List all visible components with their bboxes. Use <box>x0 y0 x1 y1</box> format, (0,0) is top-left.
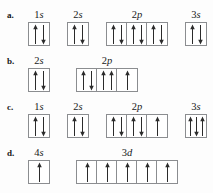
orbital-group: 2s <box>67 8 89 46</box>
subshell-label-l: p <box>137 101 142 112</box>
orbital-box <box>97 69 117 91</box>
subshell-label-l: s <box>79 101 83 112</box>
diagram-row-d: d.4s3d <box>0 140 213 188</box>
electron-arrow-down-icon <box>40 70 47 91</box>
orbital-box <box>117 161 137 183</box>
orbital-box <box>77 161 97 183</box>
part-letter: c. <box>7 102 13 112</box>
electron-arrow-up-icon <box>71 116 78 137</box>
orbital-box <box>147 115 167 137</box>
orbital-box-set <box>106 114 168 138</box>
subshell-label-l: s <box>79 9 83 20</box>
orbital-box <box>29 23 49 45</box>
subshell-label: 3d <box>76 146 178 159</box>
electron-arrow-up-icon <box>130 116 137 137</box>
orbital-diagram-figure: a.1s2s2p3sb.2s2pc.1s2s2p3sd.4s3d <box>0 0 213 193</box>
orbital-box <box>186 115 206 137</box>
orbital-box <box>77 69 97 91</box>
subshell-label: 2p <box>106 100 168 113</box>
electron-arrow-down-icon <box>88 70 95 91</box>
electron-arrow-up-icon <box>124 162 131 183</box>
electron-arrow-up-icon <box>32 116 39 137</box>
orbital-box <box>117 69 137 91</box>
orbital-box-set <box>185 114 207 138</box>
electron-arrow-up-icon <box>130 24 137 45</box>
orbital-box-set <box>28 22 50 46</box>
orbital-box <box>29 69 49 91</box>
electron-arrow-down-icon <box>40 24 47 45</box>
subshell-label-l: p <box>137 9 142 20</box>
orbital-group: 4s <box>28 146 50 184</box>
orbital-group: 2s <box>28 54 50 92</box>
electron-arrow-down-icon <box>138 24 145 45</box>
electron-arrow-down-icon <box>79 116 86 137</box>
subshell-label-l: s <box>197 9 201 20</box>
orbital-box-set <box>106 22 168 46</box>
electron-arrow-down-icon <box>158 24 165 45</box>
subshell-label: 1s <box>28 8 50 21</box>
orbital-box <box>68 23 88 45</box>
electron-arrow-up-icon <box>32 70 39 91</box>
orbital-box <box>107 115 127 137</box>
electron-arrow-up-icon <box>36 162 43 183</box>
orbital-box-set <box>76 160 178 184</box>
subshell-label: 2p <box>76 54 138 67</box>
electron-arrow-up-icon <box>144 162 151 183</box>
orbital-box <box>137 161 157 183</box>
electron-arrow-up-icon <box>80 70 87 91</box>
orbital-group: 2p <box>106 100 168 138</box>
subshell-label: 2p <box>106 8 168 21</box>
electron-arrow-up-icon <box>124 70 131 91</box>
electron-arrow-up-icon <box>154 116 161 137</box>
part-letter: a. <box>7 10 14 20</box>
orbital-box <box>97 161 117 183</box>
subshell-label-l: p <box>107 55 112 66</box>
orbital-group: 3d <box>76 146 178 184</box>
orbital-box <box>107 23 127 45</box>
orbital-box <box>127 23 147 45</box>
electron-arrow-up-icon <box>110 116 117 137</box>
electron-arrow-up-icon <box>104 162 111 183</box>
subshell-label-l: s <box>197 101 201 112</box>
diagram-row-a: a.1s2s2p3s <box>0 2 213 48</box>
subshell-label: 4s <box>28 146 50 159</box>
orbital-box <box>186 23 206 45</box>
electron-arrow-up-icon <box>150 24 157 45</box>
electron-arrow-down-icon <box>197 24 204 45</box>
diagram-row-b: b.2s2p <box>0 48 213 94</box>
orbital-group: 1s <box>28 8 50 46</box>
subshell-label-l: s <box>40 147 44 158</box>
orbital-box-set <box>67 22 89 46</box>
subshell-label: 2s <box>67 100 89 113</box>
diagram-row-c: c.1s2s2p3s <box>0 94 213 140</box>
part-letter: d. <box>7 148 14 158</box>
electron-arrow-down-icon <box>40 116 47 137</box>
part-letter: b. <box>7 56 14 66</box>
subshell-label-l: d <box>127 147 132 158</box>
electron-arrow-down-icon <box>138 116 145 137</box>
subshell-label: 1s <box>28 100 50 113</box>
electron-arrow-up-icon <box>164 162 171 183</box>
orbital-group: 1s <box>28 100 50 138</box>
electron-arrow-up-icon <box>32 24 39 45</box>
electron-arrow-up-icon <box>189 24 196 45</box>
subshell-label-l: s <box>40 101 44 112</box>
orbital-box <box>29 161 49 183</box>
electron-arrow-down-icon <box>118 24 125 45</box>
orbital-box-set <box>67 114 89 138</box>
subshell-label-l: s <box>40 9 44 20</box>
orbital-box <box>29 115 49 137</box>
electron-arrow-down-icon <box>118 116 125 137</box>
orbital-group: 3s <box>185 100 207 138</box>
orbital-box-set <box>28 68 50 92</box>
electron-arrow-down-icon <box>79 24 86 45</box>
orbital-group: 2s <box>67 100 89 138</box>
electron-arrow-up-icon <box>108 70 115 91</box>
orbital-box <box>157 161 177 183</box>
orbital-box <box>147 23 167 45</box>
orbital-box-set <box>185 22 207 46</box>
subshell-label-l: s <box>40 55 44 66</box>
electron-arrow-up-icon <box>71 24 78 45</box>
orbital-group: 2p <box>106 8 168 46</box>
electron-arrow-up-icon <box>100 70 107 91</box>
